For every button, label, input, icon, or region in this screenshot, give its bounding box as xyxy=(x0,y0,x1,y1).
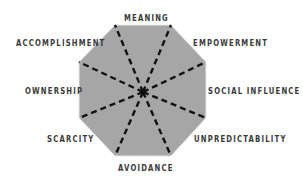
label-ownership: OWNERSHIP xyxy=(25,86,83,96)
label-social-influence: SOCIAL INFLUENCE xyxy=(208,86,301,96)
label-accomplishment: ACCOMPLISHMENT xyxy=(16,38,106,48)
label-avoidance: AVOIDANCE xyxy=(118,163,174,173)
label-meaning: MEANING xyxy=(124,13,169,23)
label-scarcity: SCARCITY xyxy=(47,134,94,144)
label-unpredictability: UNPREDICTABILITY xyxy=(194,134,287,144)
label-empowerment: EMPOWERMENT xyxy=(193,38,268,48)
